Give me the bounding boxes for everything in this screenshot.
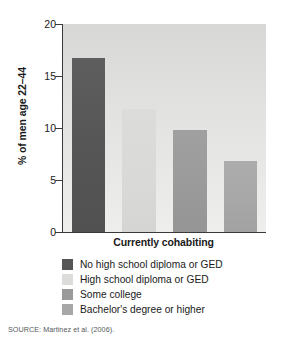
legend-label: High school diploma or GED bbox=[80, 273, 209, 286]
y-tick-mark bbox=[55, 232, 62, 233]
bar bbox=[122, 109, 155, 232]
legend: No high school diploma or GEDHigh school… bbox=[62, 257, 277, 317]
legend-swatch bbox=[62, 274, 73, 285]
y-tick-mark bbox=[55, 24, 62, 25]
plot-area bbox=[62, 24, 266, 233]
bar bbox=[72, 58, 105, 232]
legend-label: Some college bbox=[80, 288, 142, 301]
bar bbox=[224, 161, 257, 232]
legend-item: Bachelor's degree or higher bbox=[62, 302, 277, 317]
legend-label: No high school diploma or GED bbox=[80, 258, 223, 271]
source-note: SOURCE: Martinez et al. (2006). bbox=[8, 325, 114, 334]
y-tick-mark bbox=[55, 76, 62, 77]
figure: % of men age 22–44 05101520 Currently co… bbox=[0, 0, 281, 344]
y-tick-label: 5 bbox=[22, 175, 56, 185]
legend-swatch bbox=[62, 259, 73, 270]
legend-swatch bbox=[62, 289, 73, 300]
y-tick-label: 20 bbox=[22, 19, 56, 29]
y-tick-label: 10 bbox=[22, 123, 56, 133]
legend-label: Bachelor's degree or higher bbox=[80, 303, 205, 316]
legend-swatch bbox=[62, 304, 73, 315]
y-tick-label: 15 bbox=[22, 71, 56, 81]
y-tick-mark bbox=[55, 180, 62, 181]
x-axis-label: Currently cohabiting bbox=[62, 236, 265, 248]
legend-item: Some college bbox=[62, 287, 277, 302]
y-tick-label: 0 bbox=[22, 227, 56, 237]
y-axis-ticks: 05101520 bbox=[0, 0, 56, 250]
bar bbox=[173, 130, 206, 232]
y-tick-mark bbox=[55, 128, 62, 129]
legend-item: No high school diploma or GED bbox=[62, 257, 277, 272]
bar-chart: % of men age 22–44 05101520 Currently co… bbox=[0, 0, 281, 250]
legend-item: High school diploma or GED bbox=[62, 272, 277, 287]
